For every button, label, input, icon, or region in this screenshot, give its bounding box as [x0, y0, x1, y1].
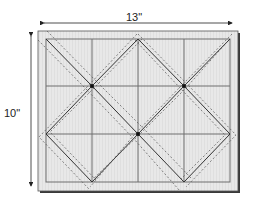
node-dot	[136, 132, 140, 136]
node-dot	[182, 84, 186, 88]
height-label: 10"	[4, 108, 20, 119]
node-dot	[90, 84, 94, 88]
diagram-canvas: 13" 10"	[0, 0, 253, 203]
width-label: 13"	[126, 12, 142, 23]
